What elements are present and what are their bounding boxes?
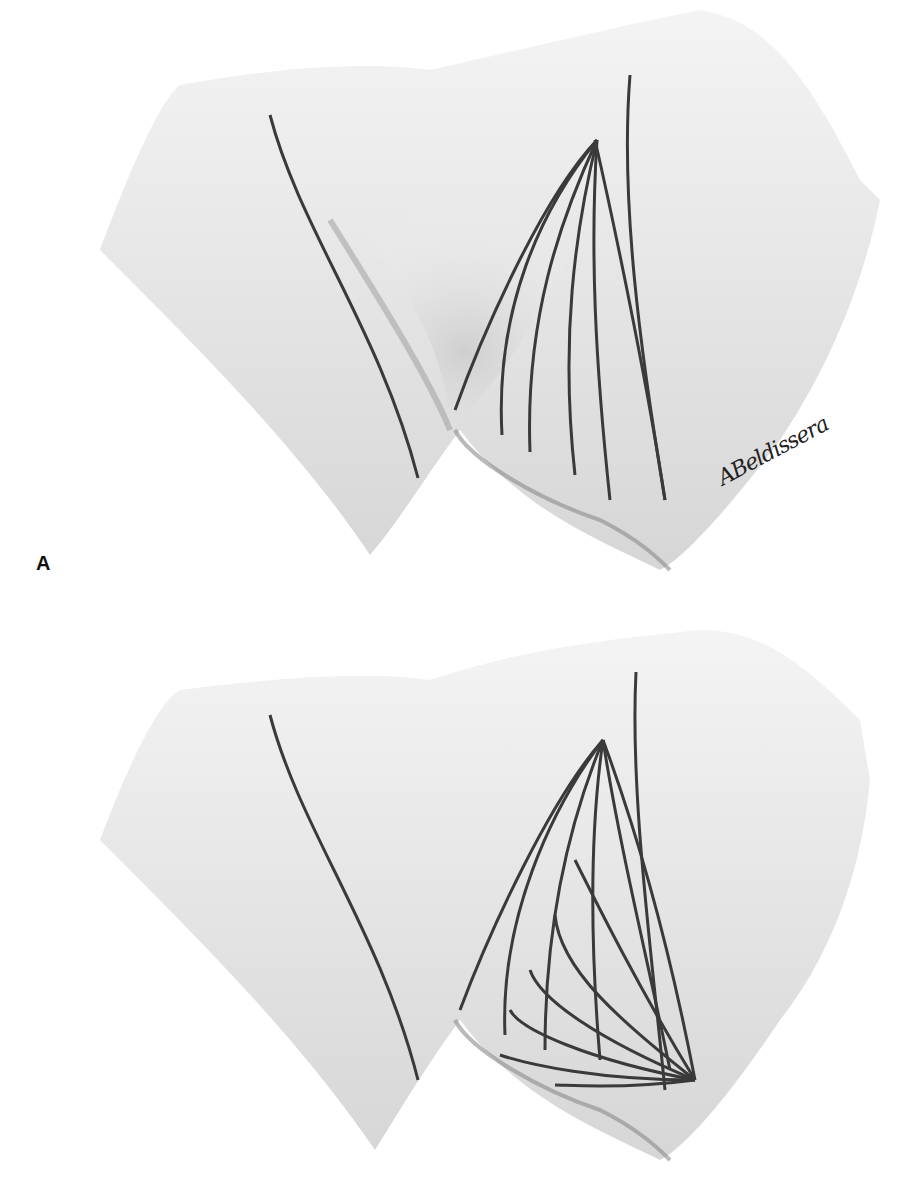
panel-a-illustration: A ABeldissera [0,0,920,580]
panel-label-a: A [36,552,50,575]
pelvic-drawing-b [0,590,920,1181]
pelvic-drawing-a [0,0,920,580]
panel-b-illustration: ABeldissera [0,590,920,1181]
